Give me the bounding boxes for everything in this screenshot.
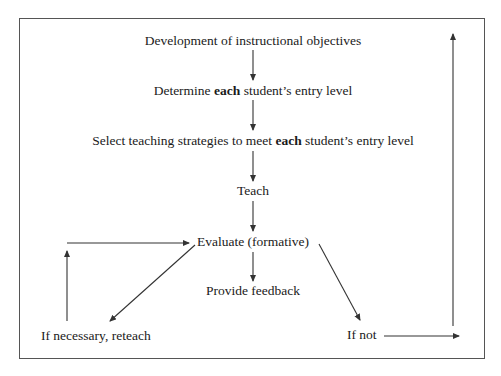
node-entry-level-text-end: student’s entry level bbox=[240, 83, 352, 98]
arrow-evaluate-to-ifnot bbox=[319, 244, 360, 320]
node-strategies: Select teaching strategies to meet each … bbox=[92, 133, 414, 149]
node-teach-label: Teach bbox=[237, 183, 269, 198]
node-entry-level-text: Determine bbox=[154, 83, 214, 98]
node-teach: Teach bbox=[237, 183, 269, 199]
node-evaluate: Evaluate (formative) bbox=[197, 234, 309, 250]
node-evaluate-label: Evaluate (formative) bbox=[197, 234, 309, 249]
node-if-not: If not bbox=[347, 327, 377, 343]
node-strategies-text: Select teaching strategies to meet bbox=[92, 133, 275, 148]
node-reteach: If necessary, reteach bbox=[41, 328, 151, 344]
node-strategies-text-end: student’s entry level bbox=[302, 133, 414, 148]
arrow-evaluate-to-reteach bbox=[110, 245, 195, 321]
node-entry-level: Determine each student’s entry level bbox=[154, 83, 353, 99]
node-objectives: Development of instructional objectives bbox=[145, 33, 361, 49]
node-reteach-label: If necessary, reteach bbox=[41, 328, 151, 343]
node-strategies-emphasis: each bbox=[275, 133, 301, 148]
node-entry-level-emphasis: each bbox=[214, 83, 240, 98]
node-feedback-label: Provide feedback bbox=[206, 283, 300, 298]
node-feedback: Provide feedback bbox=[206, 283, 300, 299]
node-objectives-label: Development of instructional objectives bbox=[145, 33, 361, 48]
node-if-not-label: If not bbox=[347, 327, 377, 342]
